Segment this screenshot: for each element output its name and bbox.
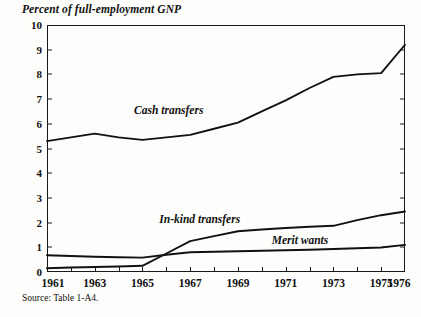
y-axis-tick-label: 10: [20, 19, 42, 31]
x-axis-tick-label: 1967: [179, 277, 202, 289]
page-title: Percent of full-employment GNP: [22, 3, 181, 15]
y-axis-tick-label: 5: [20, 143, 42, 155]
x-axis-tick-label: 1971: [274, 277, 297, 289]
x-axis-tick-label: 1963: [83, 277, 106, 289]
series-line: [47, 45, 405, 141]
y-axis-tick-label: 3: [20, 192, 42, 204]
series-label: In-kind transfers: [159, 213, 240, 225]
series-line: [47, 245, 405, 258]
x-axis-tick-label: 1976: [388, 277, 411, 289]
y-axis-tick-label: 0: [20, 266, 42, 278]
y-axis-tick-label: 1: [20, 241, 42, 253]
y-axis-tick-label: 7: [20, 93, 42, 105]
source-note: Source: Table 1-A4.: [22, 293, 98, 303]
series-label: Merit wants: [272, 234, 329, 246]
series-lines: [47, 25, 405, 272]
series-label: Cash transfers: [134, 104, 203, 116]
x-axis-tick-label: 1965: [131, 277, 154, 289]
y-axis-tick-label: 2: [20, 217, 42, 229]
x-axis-tick-label: 1961: [42, 277, 65, 289]
y-axis-tick-label: 4: [20, 167, 42, 179]
y-axis-tick-label: 9: [20, 44, 42, 56]
x-axis-tick-label: 1969: [226, 277, 249, 289]
x-axis-tick-label: 1973: [322, 277, 345, 289]
y-axis-tick-label: 8: [20, 68, 42, 80]
y-axis-tick-label: 6: [20, 118, 42, 130]
chart-page: Percent of full-employment GNP 012345678…: [0, 0, 421, 317]
